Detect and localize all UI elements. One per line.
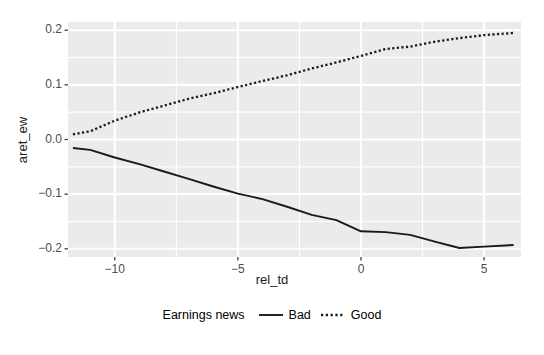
- legend-label: Good: [351, 308, 382, 322]
- y-axis-title: aret_ew: [15, 116, 30, 162]
- y-tick-label: 0.0: [45, 132, 62, 146]
- legend-item-good[interactable]: Good: [320, 308, 382, 322]
- chart-legend: Earnings news BadGood: [0, 308, 544, 322]
- x-tick-label: −5: [208, 262, 268, 276]
- legend-item-bad[interactable]: Bad: [258, 308, 311, 322]
- y-tick-label: 0.2: [45, 22, 62, 36]
- legend-key-solid-icon: [258, 308, 284, 322]
- y-tick-label: −0.1: [38, 186, 62, 200]
- y-tick-label: −0.2: [38, 241, 62, 255]
- legend-key-dotted-icon: [320, 308, 346, 322]
- x-tick-label: 5: [454, 262, 514, 276]
- legend-title: Earnings news: [163, 308, 245, 322]
- x-tick-label: 0: [331, 262, 391, 276]
- legend-label: Bad: [289, 308, 311, 322]
- x-tick-label: −10: [85, 262, 145, 276]
- plot-area: [0, 0, 544, 355]
- chart-container: aret_ew rel_td Earnings news BadGood −0.…: [0, 0, 544, 355]
- y-tick-label: 0.1: [45, 77, 62, 91]
